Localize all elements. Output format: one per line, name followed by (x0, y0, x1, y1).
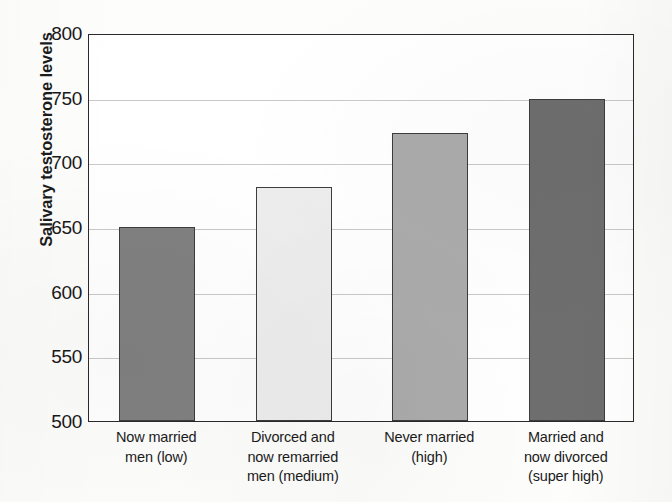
chart-page: Salivary testosterone levels 50055060065… (0, 0, 672, 502)
x-axis-label-line: (high) (357, 448, 502, 468)
x-axis-label-line: Divorced and (221, 428, 366, 448)
y-tick-label: 700 (22, 152, 82, 174)
bar (529, 99, 605, 421)
y-tick-label: 550 (22, 346, 82, 368)
x-axis-label-line: men (low) (84, 448, 229, 468)
x-axis-label-line: Never married (357, 428, 502, 448)
y-tick-label: 650 (22, 217, 82, 239)
x-axis-label-line: Married and (494, 428, 639, 448)
x-axis-category-labels: Now marriedmen (low)Divorced andnow rema… (88, 428, 634, 502)
x-axis-label-line: men (medium) (221, 467, 366, 487)
x-axis-label: Never married(high) (357, 428, 502, 467)
x-axis-label-line: now remarried (221, 448, 366, 468)
bar (119, 227, 195, 421)
plot-area (88, 34, 634, 422)
x-axis-label: Married andnow divorced(super high) (494, 428, 639, 487)
bars-group (89, 35, 633, 421)
y-tick-label: 500 (22, 411, 82, 433)
x-axis-label-line: (super high) (494, 467, 639, 487)
x-axis-label-line: Now married (84, 428, 229, 448)
y-axis-tick-labels: 500550600650700750800 (22, 0, 82, 502)
y-tick-label: 800 (22, 23, 82, 45)
bar (256, 187, 332, 421)
x-axis-label: Divorced andnow remarriedmen (medium) (221, 428, 366, 487)
x-axis-label-line: now divorced (494, 448, 639, 468)
x-axis-label: Now marriedmen (low) (84, 428, 229, 467)
bar (392, 133, 468, 421)
y-tick-label: 600 (22, 282, 82, 304)
y-tick-label: 750 (22, 88, 82, 110)
